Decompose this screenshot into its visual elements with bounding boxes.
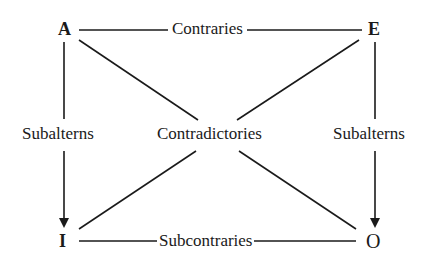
- diagonal-e-i-bottom: [79, 151, 196, 229]
- right-arrowhead-icon: [370, 218, 380, 228]
- diagonal-a-o-top: [79, 40, 198, 120]
- corner-o: O: [366, 231, 380, 251]
- subcontraries-label: Subcontraries: [157, 231, 254, 251]
- corner-i: I: [59, 231, 66, 251]
- corner-a: A: [58, 19, 71, 39]
- diagonal-a-o-bottom: [239, 151, 356, 229]
- contradictories-label: Contradictories: [157, 124, 262, 144]
- left-subalterns-label: Subalterns: [22, 124, 94, 144]
- right-subalterns-label: Subalterns: [333, 124, 405, 144]
- diagonal-e-i-top: [237, 40, 359, 120]
- contraries-label: Contraries: [168, 19, 247, 39]
- corner-e: E: [368, 19, 380, 39]
- left-arrowhead-icon: [59, 218, 69, 228]
